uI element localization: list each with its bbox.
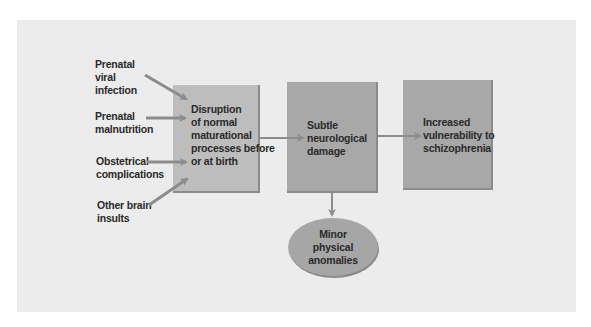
arrow-other-brain-insults: [149, 179, 187, 205]
arrows-layer: [0, 0, 591, 327]
arrow-viral-infection: [145, 75, 186, 99]
